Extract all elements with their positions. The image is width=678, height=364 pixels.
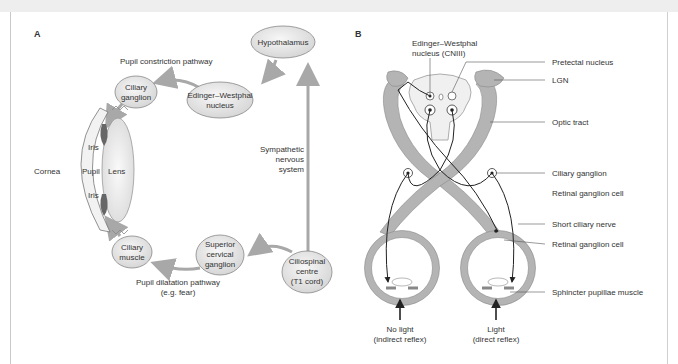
optic-tract-label: Optic tract [552,118,589,127]
svg-text:muscle: muscle [119,253,145,262]
cornea-label: Cornea [34,167,61,176]
svg-text:Ciliary: Ciliary [125,83,147,92]
panel-b: B [355,29,644,344]
svg-text:ganglion: ganglion [121,93,151,102]
eye-left [365,231,440,306]
dilatation-pathway-label-2: (e.g. fear) [161,288,196,297]
arrow-hypothalamus-to-edinger [265,60,276,80]
svg-text:Superior: Superior [205,240,236,249]
node-edinger-westphal: Edinger–Westphal nucleus [187,82,253,118]
dilatation-pathway-label-1: Pupil dilatation pathway [136,278,220,287]
retinal-ganglion-cell-label-2: Retinal ganglion cell [552,240,624,249]
pretectal-nucleus [448,92,456,100]
ciliary-ganglion-label: Ciliary ganglion [552,169,607,178]
constriction-pathway-label: Pupil constriction pathway [120,57,213,66]
node-ciliospinal-centre: Ciliospinal centre (T1 cord) [282,251,332,293]
no-light-label-1: No light [386,325,414,334]
pupil-label: Pupil [82,167,100,176]
panel-b-label: B [355,29,362,39]
pupil-reflex-diagram: A Cornea Pupil Lens Iris Iris Hypothalam… [0,0,678,364]
edinger-westphal-label-1: Edinger–Westphal [412,39,477,48]
arrow-ciliospinal-to-superior [252,246,292,253]
svg-text:Ciliary: Ciliary [121,243,143,252]
svg-text:nucleus: nucleus [206,101,234,110]
node-hypothalamus: Hypothalamus [251,26,315,58]
no-light-label-2: (indirect reflex) [374,335,427,344]
node-ciliary-muscle: Ciliary muscle [112,236,152,268]
sympathetic-label-1: Sympathetic [260,145,304,154]
short-ciliary-nerve-label: Short ciliary nerve [552,220,617,229]
iris-bottom-label: Iris [88,191,99,200]
retinal-ganglion-cell-label-1: Retinal ganglion cell [552,189,624,198]
edinger-westphal-label-2: nucleus (CNIII) [412,49,466,58]
pretectal-nucleus-label: Pretectal nucleus [552,58,613,67]
svg-text:centre: centre [296,267,319,276]
sphincter-pupillae-label: Sphincter pupillae muscle [552,288,644,297]
svg-text:Hypothalamus: Hypothalamus [257,38,308,47]
svg-text:Edinger–Westphal: Edinger–Westphal [187,91,252,100]
panel-a-label: A [34,29,41,39]
lgn-right [475,70,504,87]
sympathetic-label-2: nervous [276,155,304,164]
iris-top-label: Iris [88,143,99,152]
midbrain-shape [409,74,471,140]
node-ciliary-ganglion: Ciliary ganglion [115,76,157,108]
light-label-1: Light [487,325,505,334]
arrow-edinger-to-ciliary-ganglion [158,80,200,88]
node-superior-cervical-ganglion: Superior cervical ganglion [196,235,244,275]
svg-text:Ciliospinal: Ciliospinal [289,257,326,266]
light-label-2: (direct reflex) [473,335,520,344]
svg-text:(T1 cord): (T1 cord) [291,277,324,286]
svg-text:ganglion: ganglion [205,260,235,269]
arrow-superior-to-ciliary-muscle [156,264,200,269]
sympathetic-label-3: system [279,165,305,174]
panel-a: A Cornea Pupil Lens Iris Iris Hypothalam… [34,26,332,297]
svg-text:cervical: cervical [206,250,233,259]
arrow-ciliary-muscle-to-iris [108,220,120,236]
lgn-label: LGN [552,76,569,85]
lens-label: Lens [108,167,125,176]
